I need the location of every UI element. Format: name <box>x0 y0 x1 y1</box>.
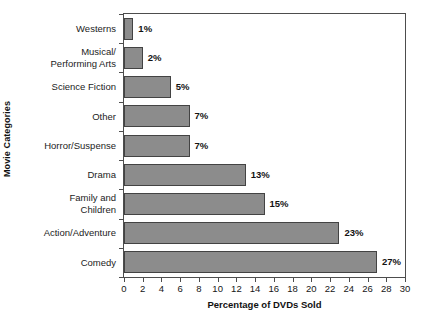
bar-science-fiction <box>124 76 171 98</box>
x-axis-tick-label: 22 <box>325 283 336 294</box>
category-label-line: Westerns <box>76 23 116 35</box>
y-axis-tick <box>119 14 123 15</box>
x-axis-tick <box>368 278 369 282</box>
y-axis-tick <box>119 219 123 220</box>
bar-family-and-children <box>124 193 265 215</box>
y-axis-tick <box>119 72 123 73</box>
bar-comedy <box>124 251 377 273</box>
bar-musical-performing-arts <box>124 47 143 69</box>
bar-value-label: 15% <box>270 199 289 209</box>
x-axis-tick <box>405 278 406 282</box>
x-axis-tick <box>218 278 219 282</box>
bar-horror-suspense <box>124 135 190 157</box>
bar-other <box>124 105 190 127</box>
category-label-line: Other <box>92 111 116 123</box>
y-axis-title: Movie Categories <box>0 0 14 278</box>
y-axis-title-text: Movie Categories <box>2 101 12 177</box>
bar-value-label: 5% <box>176 82 190 92</box>
x-axis-tick-label: 24 <box>344 283 355 294</box>
category-label-line: Comedy <box>81 257 116 269</box>
category-label-line: Drama <box>87 169 116 181</box>
category-label: Family andChildren <box>16 189 116 218</box>
category-label: Musical/Performing Arts <box>16 43 116 72</box>
x-axis-tick-label: 14 <box>250 283 261 294</box>
x-axis-tick-label: 16 <box>269 283 280 294</box>
y-axis-tick <box>119 102 123 103</box>
bar-value-label: 7% <box>195 111 209 121</box>
category-label: Comedy <box>16 248 116 277</box>
x-axis-tick <box>386 278 387 282</box>
bar-value-label: 1% <box>138 24 152 34</box>
category-label-line: Horror/Suspense <box>44 140 116 152</box>
y-axis-tick <box>119 43 123 44</box>
category-label: Action/Adventure <box>16 219 116 248</box>
x-axis-tick <box>293 278 294 282</box>
category-label: Other <box>16 102 116 131</box>
x-axis-tick-label: 10 <box>212 283 223 294</box>
y-axis-tick <box>119 189 123 190</box>
bar-chart: Movie Categories WesternsMusical/Perform… <box>0 0 422 319</box>
x-axis-tick <box>330 278 331 282</box>
bar-value-label: 2% <box>148 53 162 63</box>
x-axis-tick-label: 0 <box>121 283 126 294</box>
x-axis-tick-label: 20 <box>306 283 317 294</box>
y-axis-tick <box>119 248 123 249</box>
y-axis-tick <box>119 160 123 161</box>
x-axis-tick <box>180 278 181 282</box>
category-axis-labels: WesternsMusical/Performing ArtsScience F… <box>16 14 120 278</box>
category-label-line: Science Fiction <box>52 81 116 93</box>
bar-value-label: 7% <box>195 141 209 151</box>
chart-title <box>150 0 412 3</box>
x-axis-tick <box>161 278 162 282</box>
bar-action-adventure <box>124 222 339 244</box>
bar-drama <box>124 164 246 186</box>
x-axis-tick <box>274 278 275 282</box>
x-axis-title: Percentage of DVDs Sold <box>123 299 406 310</box>
x-axis-tick-label: 8 <box>196 283 201 294</box>
bar-value-label: 27% <box>382 257 401 267</box>
category-label: Westerns <box>16 14 116 43</box>
x-axis-tick <box>255 278 256 282</box>
x-axis-tick <box>199 278 200 282</box>
x-axis-tick-label: 12 <box>231 283 242 294</box>
category-label-line: Performing Arts <box>51 58 116 70</box>
bar-westerns <box>124 18 133 40</box>
x-axis-tick-label: 4 <box>159 283 164 294</box>
y-axis-tick <box>119 277 123 278</box>
x-axis-tick <box>311 278 312 282</box>
x-axis-tick-label: 30 <box>400 283 411 294</box>
x-axis-tick <box>124 278 125 282</box>
category-label: Horror/Suspense <box>16 131 116 160</box>
category-label: Science Fiction <box>16 72 116 101</box>
x-axis-tick <box>143 278 144 282</box>
bar-value-label: 13% <box>251 170 270 180</box>
x-axis-tick-label: 26 <box>362 283 373 294</box>
x-axis-tick <box>236 278 237 282</box>
category-label-line: Action/Adventure <box>44 227 116 239</box>
category-label: Drama <box>16 160 116 189</box>
x-axis-tick-label: 2 <box>140 283 145 294</box>
x-axis-tick-labels: 024681012141618202224262830 <box>124 283 405 296</box>
category-label-line: Family and <box>70 192 116 204</box>
y-axis-ticks <box>119 14 124 277</box>
category-label-line: Musical/ <box>81 46 116 58</box>
category-label-line: Children <box>81 204 116 216</box>
x-axis-tick-label: 6 <box>178 283 183 294</box>
x-axis-tick-label: 18 <box>287 283 298 294</box>
x-axis-tick <box>349 278 350 282</box>
bar-value-label: 23% <box>344 228 363 238</box>
y-axis-tick <box>119 131 123 132</box>
x-axis-tick-label: 28 <box>381 283 392 294</box>
